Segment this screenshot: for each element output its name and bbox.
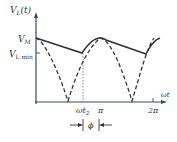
rectified-sine-dashed — [36, 38, 154, 101]
phi-arrow-right-icon — [99, 123, 104, 127]
x-axis-label: ωt — [161, 91, 170, 99]
x-axis-arrow-icon — [161, 100, 167, 104]
phi-label: ϕ — [88, 121, 94, 130]
vm-label: VM — [18, 34, 32, 45]
tick-wt2: ωt2 — [76, 106, 90, 116]
vlmin-label: VL min — [9, 49, 33, 60]
ripple-voltage-diagram: VL(t) VM VL min ωt ωt2 π 2π ϕ — [0, 0, 177, 142]
phi-arrow-left-icon — [78, 123, 83, 127]
tick-pi: π — [97, 106, 104, 115]
y-axis-label: VL(t) — [10, 5, 32, 16]
y-axis-arrow-icon — [34, 12, 38, 18]
tick-2pi: 2π — [147, 106, 159, 115]
